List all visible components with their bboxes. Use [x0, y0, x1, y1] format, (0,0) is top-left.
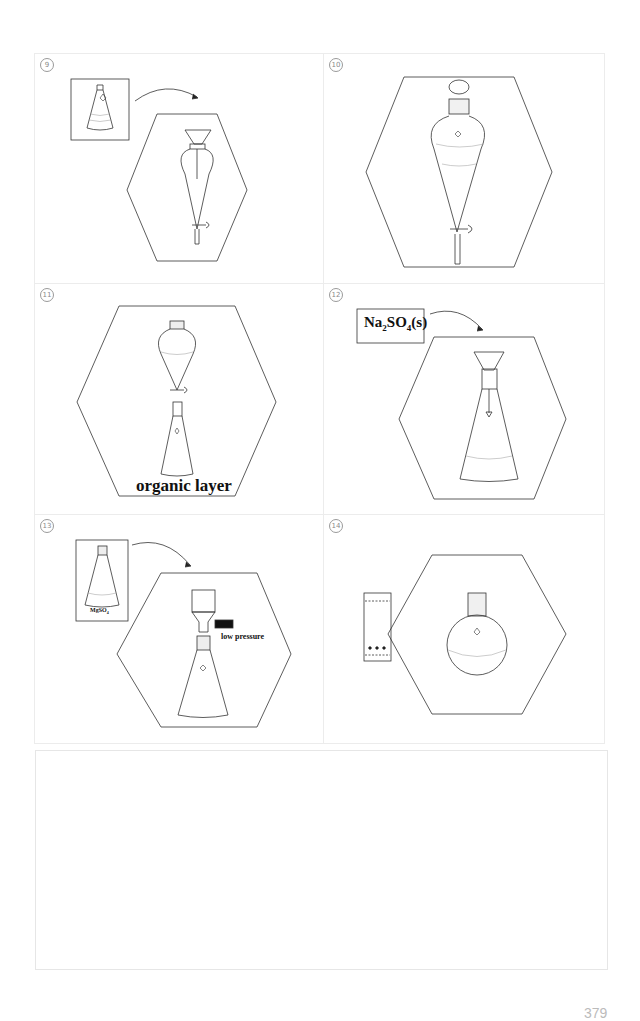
erlenmeyer-flask-icon: [85, 555, 119, 607]
transfer-arrow: [132, 543, 190, 566]
hexagon-frame: [388, 555, 566, 714]
step-13-panel: 13 MgSO4 low pressure: [35, 515, 323, 745]
empty-answer-area: [35, 750, 608, 970]
step-10-illustration: [324, 54, 606, 283]
step-14-panel: 14: [324, 515, 612, 745]
stopper-icon: [449, 80, 469, 94]
step-13-illustration: [35, 515, 323, 745]
tlc-spot: [376, 647, 379, 650]
hexagon-frame: [399, 337, 566, 499]
organic-layer-label: organic layer: [136, 476, 232, 496]
reagent-label: Na2SO4(s): [364, 314, 427, 333]
separatory-funnel-icon: [431, 116, 484, 232]
tlc-plate-icon: [364, 593, 391, 661]
hexagon-frame: [127, 114, 247, 261]
funnel-icon: [474, 352, 504, 370]
tlc-spot: [369, 647, 372, 650]
inset-box: [71, 79, 129, 140]
round-bottom-flask-icon: [447, 615, 507, 675]
step-12-panel: 12 Na2SO4(s): [324, 284, 612, 514]
tlc-spot: [383, 647, 386, 650]
erlenmeyer-flask-icon: [161, 416, 193, 476]
low-pressure-label: low pressure: [221, 632, 264, 641]
page-number: 379: [584, 1005, 607, 1021]
step-11-panel: 11 organic layer: [35, 284, 323, 514]
separatory-funnel-icon: [158, 329, 195, 390]
erlenmeyer-flask-icon: [87, 85, 113, 130]
filter-flask-icon: [178, 650, 228, 718]
step-9-illustration: [35, 54, 323, 283]
transfer-arrow: [430, 311, 482, 329]
funnel-icon: [185, 130, 211, 144]
mgso4-label: MgSO4: [90, 607, 109, 615]
step-9-panel: 9: [35, 54, 323, 284]
transfer-arrow: [135, 89, 197, 101]
step-10-panel: 10: [324, 54, 612, 284]
step-14-illustration: [324, 515, 606, 745]
hexagon-frame: [77, 306, 276, 496]
vacuum-hose: [215, 620, 233, 628]
buchner-funnel-icon: [192, 590, 215, 612]
procedure-grid: 9 10: [34, 53, 605, 744]
